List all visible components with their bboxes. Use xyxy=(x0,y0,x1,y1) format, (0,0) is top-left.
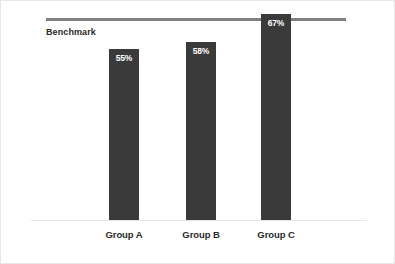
category-label-group-b: Group B xyxy=(166,229,236,240)
plot-area: Benchmark 55% 58% 67% Group A Group B Gr… xyxy=(1,1,395,264)
bar-value-label-group-a: 55% xyxy=(109,53,139,63)
bar-value-label-group-c: 67% xyxy=(261,18,291,28)
bar-group-b: 58% xyxy=(186,42,216,220)
category-label-group-a: Group A xyxy=(89,229,159,240)
category-label-group-c: Group C xyxy=(241,229,311,240)
bar-value-label-group-b: 58% xyxy=(186,46,216,56)
bar-group-a: 55% xyxy=(109,49,139,220)
chart-container: Benchmark 55% 58% 67% Group A Group B Gr… xyxy=(0,0,395,264)
bar-group-c: 67% xyxy=(261,14,291,220)
benchmark-label: Benchmark xyxy=(46,27,96,37)
benchmark-reference-line xyxy=(46,18,346,21)
category-axis-baseline xyxy=(31,220,367,221)
